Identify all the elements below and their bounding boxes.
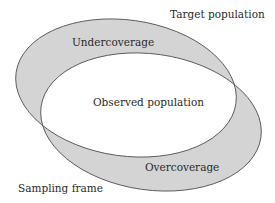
overcoverage-label: Overcoverage <box>145 162 219 173</box>
sampling-frame-label: Sampling frame <box>18 183 103 194</box>
target-population-label: Target population <box>170 9 265 20</box>
undercoverage-label: Undercoverage <box>72 37 154 48</box>
observed-population-label: Observed population <box>93 97 204 108</box>
coverage-diagram: Target population Undercoverage Observed… <box>0 0 275 203</box>
